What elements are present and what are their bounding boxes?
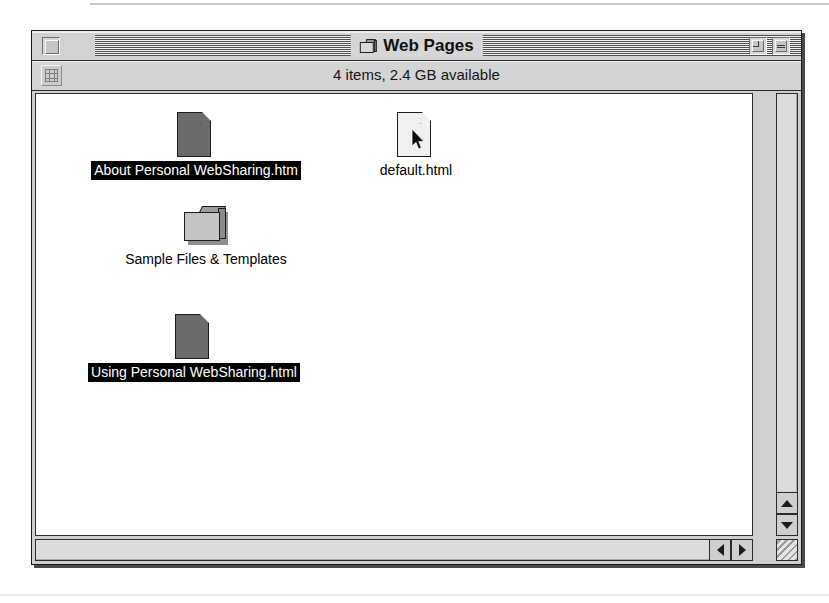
document-icon[interactable] bbox=[175, 314, 213, 362]
resize-grip-icon[interactable] bbox=[776, 539, 798, 561]
scroll-down-arrow-icon[interactable] bbox=[776, 514, 798, 536]
file-item[interactable]: default.html bbox=[286, 112, 546, 180]
horizontal-scrollbar[interactable] bbox=[35, 539, 753, 561]
collapse-box[interactable] bbox=[772, 37, 790, 55]
arrow-pointer-icon bbox=[411, 129, 425, 151]
horizontal-scroll-track[interactable] bbox=[36, 540, 709, 560]
folder-icon bbox=[359, 39, 376, 54]
window-title: Web Pages bbox=[383, 36, 473, 56]
document-icon[interactable] bbox=[397, 112, 435, 160]
file-item-label[interactable]: Sample Files & Templates bbox=[122, 250, 290, 269]
title-bar-highlight bbox=[32, 31, 801, 33]
file-item-label[interactable]: Using Personal WebSharing.html bbox=[88, 363, 300, 382]
scroll-right-arrow-icon[interactable] bbox=[731, 539, 753, 561]
folder-icon[interactable] bbox=[182, 204, 230, 248]
window-status-bar: 4 items, 2.4 GB available bbox=[32, 61, 801, 91]
scroll-up-arrow-icon[interactable] bbox=[776, 492, 798, 514]
vertical-scrollbar[interactable] bbox=[776, 93, 798, 536]
window-title-group: Web Pages bbox=[350, 34, 482, 58]
window-title-bar[interactable]: Web Pages bbox=[32, 31, 801, 61]
finder-window: Web Pages 4 items, 2.4 GB available Abou… bbox=[31, 30, 802, 565]
scan-artifact-line-bottom bbox=[0, 594, 829, 596]
file-icon-pane[interactable]: About Personal WebSharing.htmdefault.htm… bbox=[35, 93, 753, 536]
scroll-left-arrow-icon[interactable] bbox=[709, 539, 731, 561]
scan-artifact-line-top bbox=[90, 3, 829, 5]
scanned-page-background: Web Pages 4 items, 2.4 GB available Abou… bbox=[0, 0, 829, 603]
file-item-label[interactable]: About Personal WebSharing.htm bbox=[91, 161, 301, 180]
status-text: 4 items, 2.4 GB available bbox=[32, 66, 801, 83]
file-item[interactable]: Using Personal WebSharing.html bbox=[64, 314, 324, 382]
document-icon[interactable] bbox=[177, 112, 215, 160]
file-item-label[interactable]: default.html bbox=[377, 161, 455, 180]
close-box[interactable] bbox=[42, 37, 60, 55]
zoom-box[interactable] bbox=[749, 37, 767, 55]
vertical-scroll-track[interactable] bbox=[777, 94, 797, 491]
file-item[interactable]: Sample Files & Templates bbox=[76, 204, 336, 269]
window-content-area: About Personal WebSharing.htmdefault.htm… bbox=[32, 91, 801, 564]
